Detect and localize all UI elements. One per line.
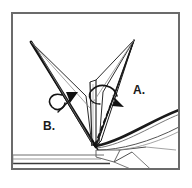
right-spike	[92, 40, 134, 146]
base-ground-line	[13, 155, 110, 164]
dashed-fold-line	[95, 99, 113, 145]
label-a: A.	[133, 84, 145, 96]
lower-body-panels	[96, 147, 176, 178]
rotation-arrow-a	[89, 85, 124, 107]
left-spike	[31, 42, 96, 147]
origami-diagram-canvas	[0, 0, 192, 188]
figure-root: A. B.	[0, 0, 192, 188]
label-b: B.	[43, 120, 55, 132]
